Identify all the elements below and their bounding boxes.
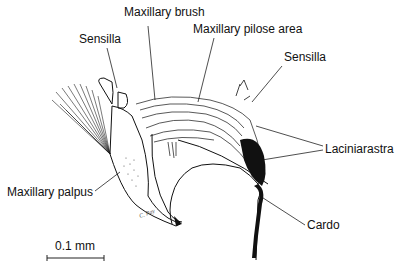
label-laciniarastra: Laciniarastra [325, 142, 394, 156]
label-cardo: Cardo [307, 218, 340, 232]
scale-bar [47, 255, 104, 261]
sensilla-right-spines [236, 80, 250, 100]
palpus-stipple [123, 157, 138, 186]
label-maxillary-brush: Maxillary brush [124, 5, 205, 19]
label-sensilla-left: Sensilla [79, 32, 121, 46]
palpus-setae [52, 84, 110, 154]
maxillary-palpus-shape [99, 78, 180, 226]
cardo-shape [252, 184, 263, 258]
label-maxillary-palpus: Maxillary palpus [7, 185, 93, 199]
label-maxillary-pilose-area: Maxillary pilose area [193, 22, 302, 36]
maxilla-illustration: C. Ray [0, 0, 406, 268]
laciniarastra-dark-mass [240, 139, 266, 186]
apical-tooth-tip [174, 216, 182, 226]
label-sensilla-right: Sensilla [284, 50, 326, 64]
scale-bar-label: 0.1 mm [55, 239, 95, 253]
